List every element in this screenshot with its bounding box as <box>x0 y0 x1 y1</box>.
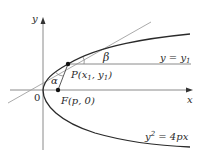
parabola-diagram: y x 0 β α y = y1 P(x1, y1) F(p, 0) y2 = … <box>0 0 209 151</box>
y-axis-label: y <box>31 13 38 24</box>
focus-label: F(p, 0) <box>60 95 95 106</box>
line-equation-label: y = y1 <box>159 52 191 65</box>
x-axis-label: x <box>187 94 193 105</box>
point-F <box>56 88 60 92</box>
tangent-line <box>8 22 151 103</box>
origin-label: 0 <box>34 92 40 103</box>
curve-equation-label: y2 = 4px <box>144 130 189 142</box>
alpha-label: α <box>51 75 58 86</box>
y-axis-arrow-icon <box>41 17 46 24</box>
beta-label: β <box>102 51 109 64</box>
segment-PF <box>58 64 68 90</box>
point-P-label: P(x1, y1) <box>70 69 112 82</box>
x-axis-arrow-icon <box>186 88 193 93</box>
point-P <box>66 62 70 66</box>
